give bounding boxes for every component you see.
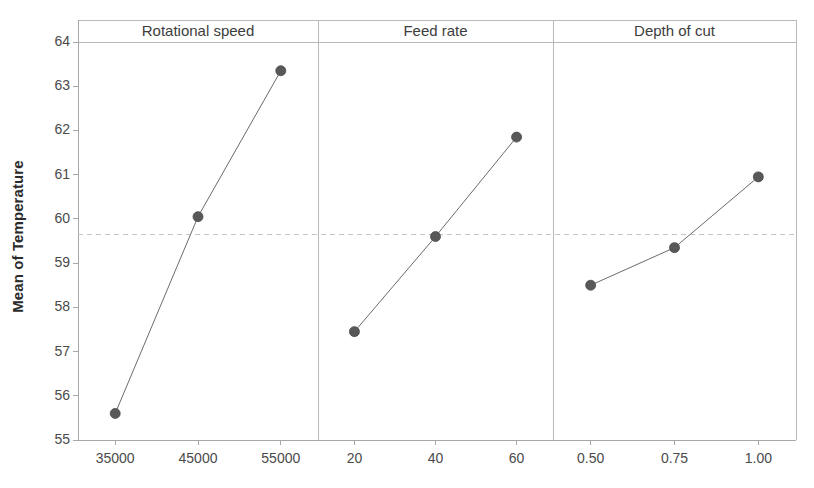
data-point-marker[interactable]	[753, 172, 763, 182]
panel-title-2: Feed rate	[318, 22, 553, 39]
data-point-marker[interactable]	[586, 280, 596, 290]
data-series-layer	[110, 66, 763, 419]
data-point-marker[interactable]	[110, 408, 120, 418]
y-tick-label: 61	[26, 166, 70, 182]
tick-marks-layer	[73, 42, 758, 445]
chart-canvas	[0, 0, 814, 488]
data-point-marker[interactable]	[431, 232, 441, 242]
main-effects-plot: Mean of Temperature 55565758596061626364…	[0, 0, 814, 488]
data-point-marker[interactable]	[276, 66, 286, 76]
y-tick-label: 59	[26, 254, 70, 270]
y-tick-label: 55	[26, 431, 70, 447]
data-point-marker[interactable]	[349, 327, 359, 337]
panel-title-3: Depth of cut	[553, 22, 796, 39]
series-line-panel-1	[115, 71, 281, 414]
y-tick-label: 58	[26, 298, 70, 314]
plot-frame	[78, 20, 796, 440]
data-point-marker[interactable]	[512, 132, 522, 142]
y-tick-label: 56	[26, 387, 70, 403]
x-tick-label: 1.00	[708, 450, 808, 466]
data-point-marker[interactable]	[193, 212, 203, 222]
y-tick-label: 62	[26, 121, 70, 137]
panel-title-1: Rotational speed	[78, 22, 318, 39]
y-tick-label: 63	[26, 77, 70, 93]
y-tick-label: 60	[26, 210, 70, 226]
series-line-panel-3	[591, 177, 759, 285]
y-tick-label: 57	[26, 343, 70, 359]
data-point-marker[interactable]	[670, 243, 680, 253]
y-tick-label: 64	[26, 33, 70, 49]
